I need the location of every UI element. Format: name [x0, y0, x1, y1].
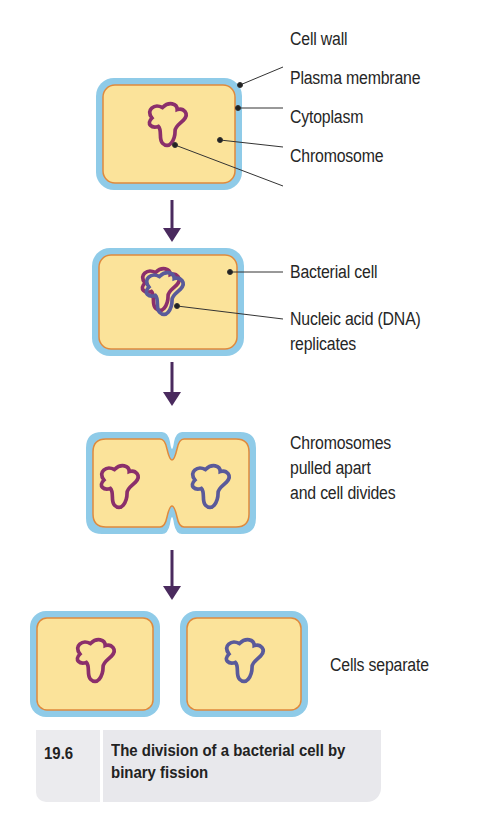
- label-nucleic-acid: Nucleic acid (DNA): [290, 308, 421, 330]
- stage-4-cell-left: [30, 611, 160, 717]
- stage-3-dividing-cell: [86, 432, 256, 534]
- label-replicates: replicates: [290, 333, 356, 355]
- label-plasma-membrane: Plasma membrane: [290, 67, 420, 89]
- label-cell-wall: Cell wall: [290, 28, 347, 50]
- label-pulled-apart: pulled apart: [290, 457, 371, 479]
- label-cytoplasm: Cytoplasm: [290, 106, 363, 128]
- label-chromosomes: Chromosomes: [290, 432, 391, 454]
- figure-caption: The division of a bacterial cell by bina…: [111, 740, 375, 784]
- arrow-down-icon: [163, 362, 181, 406]
- arrow-down-icon: [163, 200, 181, 242]
- stage-4-cell-right: [180, 611, 308, 717]
- figure-number: 19.6: [44, 744, 73, 764]
- label-cell-divides: and cell divides: [290, 482, 395, 504]
- label-cells-separate: Cells separate: [330, 654, 429, 676]
- binary-fission-diagram: [0, 0, 488, 816]
- figure-number-box: 19.6: [36, 730, 100, 802]
- arrow-down-icon: [163, 550, 181, 600]
- stage-1-cell: [96, 78, 242, 190]
- figure-caption-box: The division of a bacterial cell by bina…: [103, 730, 381, 802]
- label-chromosome: Chromosome: [290, 145, 383, 167]
- stage-2-cell: [92, 248, 244, 356]
- label-bacterial-cell: Bacterial cell: [290, 261, 377, 283]
